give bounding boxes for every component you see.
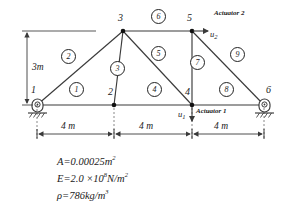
dimension-label-height: 3m (32, 63, 44, 73)
node-label-1: 1 (31, 85, 36, 95)
node-label-5: 5 (187, 13, 192, 23)
property-modulus: E=2.0 ×108N/m2 (57, 172, 128, 184)
dof-subscript-1: 1 (182, 113, 185, 120)
actuator-1-label: Actuator 1 (196, 108, 227, 115)
joint-4 (190, 103, 195, 108)
property-modulus-value: 2.0 ×10 (71, 173, 104, 184)
property-modulus-equals: = (63, 173, 70, 184)
dimension-label-span-3: 4 m (214, 122, 228, 132)
property-modulus-unit: N/m (107, 173, 125, 184)
actuator-2-label: Actuator 2 (214, 10, 245, 17)
support-pin-node-1 (28, 99, 47, 118)
element-label-9: 9 (230, 47, 245, 62)
dimension-label-span-2: 4 m (139, 122, 153, 132)
property-area-value: 0.00025 (71, 156, 105, 167)
dof-label-u1: u1 (178, 110, 186, 120)
truss-drawing-canvas (0, 0, 292, 221)
element-label-6: 6 (151, 9, 166, 24)
joint-3 (121, 29, 126, 34)
property-density-unit: kg/m (85, 190, 105, 201)
truss-diagram-page: 1 2 3 4 5 6 1 2 3 4 5 6 7 8 9 3m 4 m 4 m… (0, 0, 292, 221)
dof-label-u2: u2 (210, 30, 218, 40)
node-label-2: 2 (108, 87, 113, 97)
property-density-value: 786 (69, 190, 85, 201)
element-label-7: 7 (190, 55, 205, 70)
property-area-equals: = (63, 156, 70, 167)
node-label-4: 4 (185, 87, 190, 97)
node-label-3: 3 (118, 13, 123, 23)
element-label-1: 1 (69, 82, 84, 97)
element-label-4: 4 (147, 82, 162, 97)
dof-subscript-2: 2 (214, 33, 217, 40)
property-modulus-unit-exponent: 2 (125, 171, 128, 178)
node-label-6: 6 (266, 85, 271, 95)
element-label-2: 2 (61, 49, 76, 64)
joint-2 (112, 103, 117, 108)
dimension-label-span-1: 4 m (61, 122, 75, 132)
element-label-8: 8 (219, 82, 234, 97)
support-roller-node-6 (255, 99, 274, 118)
property-density: ρ=786kg/m3 (57, 189, 109, 201)
element-label-5: 5 (151, 46, 166, 61)
property-area-unit-exponent: 2 (112, 154, 115, 161)
property-area: A=0.00025m2 (57, 155, 115, 167)
element-label-3: 3 (110, 61, 125, 76)
property-density-unit-exponent: 3 (105, 188, 108, 195)
